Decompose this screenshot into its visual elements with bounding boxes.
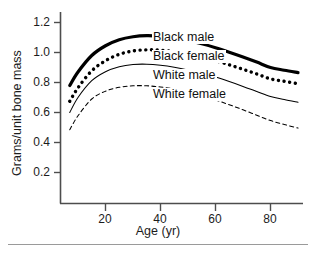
y-axis-title: Grams/unit bone mass xyxy=(10,33,24,193)
series-label-black-female: Black female xyxy=(152,50,226,63)
series-label-white-female: White female xyxy=(152,88,227,101)
x-axis-title: Age (yr) xyxy=(0,224,316,238)
y-tick-label-0-8: 0.8 xyxy=(24,76,50,88)
y-tick-label-0-2: 0.2 xyxy=(24,166,50,178)
bone-mass-figure: 1.2 1.0 0.8 0.6 0.4 0.2 20 40 60 80 Age … xyxy=(0,0,316,256)
series-label-black-male: Black male xyxy=(152,31,215,44)
y-axis-ticks xyxy=(54,23,60,173)
series-label-white-male: White male xyxy=(152,69,217,82)
y-tick-label-1-2: 1.2 xyxy=(24,16,50,28)
y-tick-label-0-6: 0.6 xyxy=(24,106,50,118)
footer-divider xyxy=(8,244,308,245)
y-tick-label-0-4: 0.4 xyxy=(24,136,50,148)
y-tick-label-1-0: 1.0 xyxy=(24,46,50,58)
